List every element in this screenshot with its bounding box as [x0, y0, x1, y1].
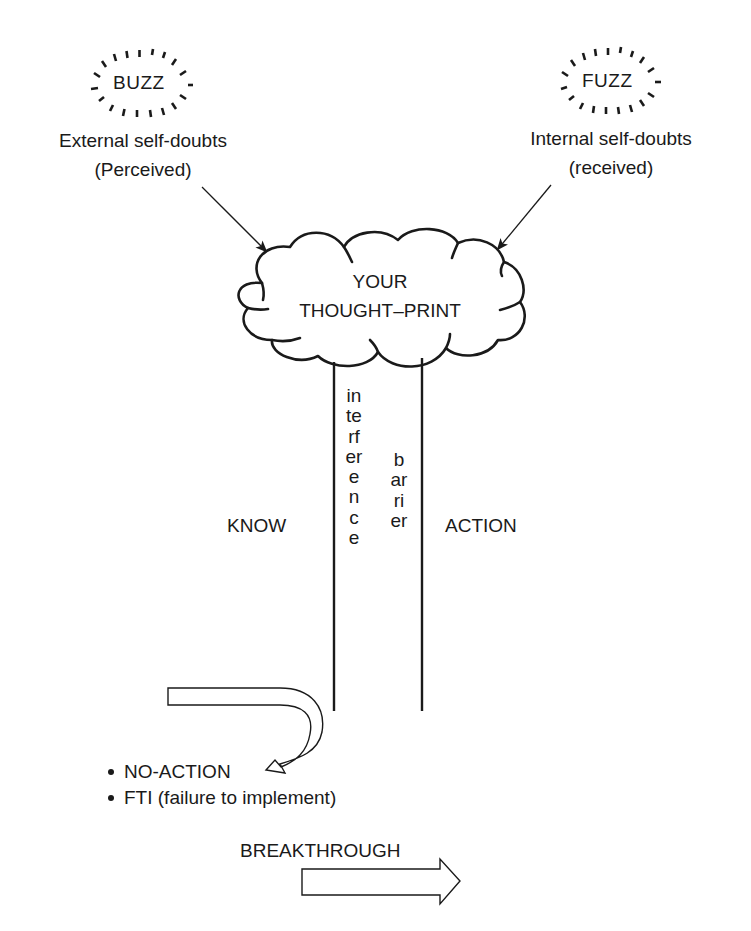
know-label: KNOW — [227, 515, 286, 537]
buzz-label: BUZZ — [113, 72, 165, 94]
bullet-icon — [108, 769, 114, 775]
fuzz-caption-line1: Internal self-doubts — [508, 128, 714, 150]
breakthrough-label: BREAKTHROUGH — [240, 840, 400, 862]
outcome-list: NO-ACTION FTI (failure to implement) — [106, 759, 336, 811]
fuzz-caption-line2: (received) — [508, 157, 714, 179]
interference-vertical-label: interference — [344, 386, 364, 548]
breakthrough-arrow-icon — [302, 859, 460, 904]
buzz-caption-line2: (Perceived) — [40, 159, 246, 181]
outcome-item-fti: FTI (failure to implement) — [106, 785, 336, 811]
buzz-to-cloud-arrow — [202, 187, 266, 251]
barrier-vertical-label: barrier — [389, 450, 409, 531]
outcome-text: FTI (failure to implement) — [124, 787, 336, 808]
cloud-title-line1: YOUR — [280, 269, 480, 295]
buzz-caption-line1: External self-doubts — [40, 130, 246, 152]
fuzz-label: FUZZ — [582, 70, 633, 92]
action-label: ACTION — [445, 515, 517, 537]
outcome-item-no-action: NO-ACTION — [106, 759, 336, 785]
outcome-text: NO-ACTION — [124, 761, 231, 782]
bullet-icon — [108, 795, 114, 801]
cloud-title-line2: THOUGHT–PRINT — [270, 298, 490, 324]
fuzz-to-cloud-arrow — [498, 185, 551, 249]
